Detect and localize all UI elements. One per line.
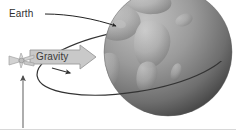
earth-globe [72, 0, 232, 116]
orbit-direction-arrow [52, 68, 70, 73]
globe-continents [72, 0, 232, 116]
earth-leader-line [45, 14, 116, 26]
bottom-divider [0, 129, 236, 130]
diagram-scene [0, 0, 236, 132]
earth-label: Earth [9, 9, 33, 19]
gravity-label: Gravity [36, 52, 68, 62]
diagram-canvas: Earth Gravity [0, 0, 236, 132]
